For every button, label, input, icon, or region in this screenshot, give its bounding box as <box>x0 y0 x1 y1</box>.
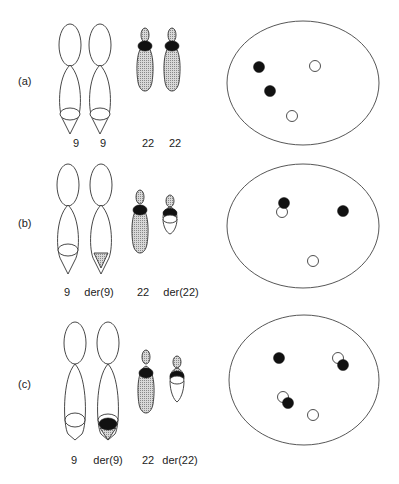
chromosome-label: 9 <box>73 137 79 149</box>
chromosome-9-normal <box>59 24 81 134</box>
chromosome-22-normal <box>138 350 154 413</box>
red-signal <box>338 206 349 217</box>
red-signal <box>265 86 276 97</box>
chromosome-der9 <box>97 322 119 440</box>
chromosome-9-normal <box>57 164 79 274</box>
green-signal <box>310 61 321 72</box>
red-signal <box>283 398 294 409</box>
chromosome-label: 9 <box>64 286 70 298</box>
chromosome-label: 22 <box>142 137 154 149</box>
interphase-nucleus-b <box>227 164 379 288</box>
red-signal <box>254 62 265 73</box>
red-signal <box>279 198 290 209</box>
panel-c: (c) 9 der(9) 2 <box>18 315 379 466</box>
interphase-nucleus-a <box>227 21 379 145</box>
panel-a: (a) 9 9 22 22 <box>18 21 379 149</box>
red-signal <box>338 360 349 371</box>
chromosome-label: der(9) <box>84 286 113 298</box>
chromosome-der9 <box>90 164 112 274</box>
chromosome-22-normal <box>164 28 180 91</box>
chromosome-label: der(22) <box>163 286 198 298</box>
chromosome-der22 <box>170 356 184 402</box>
fish-diagram: (a) 9 9 22 22 <box>0 0 399 484</box>
chromosome-label: 22 <box>142 454 154 466</box>
chromosome-9-normal <box>64 322 86 440</box>
chromosome-label: 22 <box>137 286 149 298</box>
chromosome-22-normal <box>137 28 153 91</box>
green-signal <box>308 256 319 267</box>
green-signal <box>287 111 298 122</box>
chromosome-label: der(22) <box>162 454 197 466</box>
red-signal <box>274 353 285 364</box>
panel-label-c: (c) <box>18 378 31 390</box>
panel-label-b: (b) <box>18 217 31 229</box>
chromosome-label: 22 <box>169 137 181 149</box>
chromosome-der22 <box>163 195 177 234</box>
chromosome-22-normal <box>132 190 148 253</box>
panel-b: (b) 9 der(9) 22 der(22) <box>18 164 379 298</box>
green-signal <box>308 410 319 421</box>
chromosome-9-normal <box>89 24 111 134</box>
chromosome-label: 9 <box>71 454 77 466</box>
interphase-nucleus-c <box>229 315 379 445</box>
chromosome-label: der(9) <box>93 454 122 466</box>
panel-label-a: (a) <box>18 75 31 87</box>
chromosome-label: 9 <box>100 137 106 149</box>
